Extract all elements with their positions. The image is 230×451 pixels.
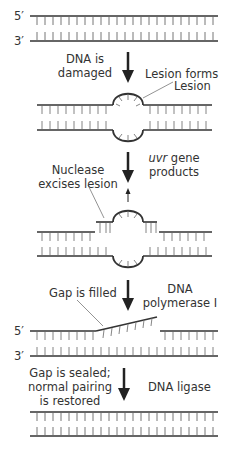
three-prime-label: 3′ [14, 34, 24, 48]
label-line: DNA is [55, 52, 115, 66]
step2-right-label: uvr gene products [142, 151, 206, 179]
step2-left-label: Nuclease excises lesion [38, 163, 118, 191]
label-line: Gap is sealed; [26, 366, 114, 380]
label-line: Nuclease [38, 163, 118, 177]
arrow-down-icon [118, 368, 130, 401]
label-text: gene [167, 151, 199, 165]
five-prime-label: 5′ [14, 9, 24, 23]
label-line: normal pairing [26, 380, 114, 394]
three-prime-label: 3′ [14, 349, 24, 363]
label-line: DNA [142, 282, 218, 296]
arrow-down-icon [122, 280, 134, 311]
arrow-down-icon [122, 52, 134, 83]
label-line: products [142, 165, 206, 179]
dna-excision [37, 211, 212, 268]
step3-right-label: DNA polymerase I [142, 282, 218, 310]
step4-left-label: Gap is sealed; normal pairing is restore… [26, 366, 114, 408]
label-line: damaged [55, 66, 115, 80]
step1-left-label: DNA is damaged [55, 52, 115, 80]
uvr-italic: uvr [148, 151, 167, 165]
lesion-callout-label: Lesion [174, 79, 211, 93]
label-line: uvr gene [142, 151, 206, 165]
arrow-down-icon [122, 152, 134, 202]
dna-gap-filling [30, 317, 218, 356]
step4-right-label: DNA ligase [148, 380, 211, 394]
gap-filled-callout-line [77, 300, 103, 326]
label-line: is restored [26, 394, 114, 408]
step3-left-label: Gap is filled [49, 286, 117, 300]
dna-intact-top [30, 16, 218, 41]
dna-restored [30, 412, 218, 436]
label-line: polymerase I [142, 296, 218, 310]
five-prime-label: 5′ [14, 324, 24, 338]
label-line: excises lesion [38, 177, 118, 191]
